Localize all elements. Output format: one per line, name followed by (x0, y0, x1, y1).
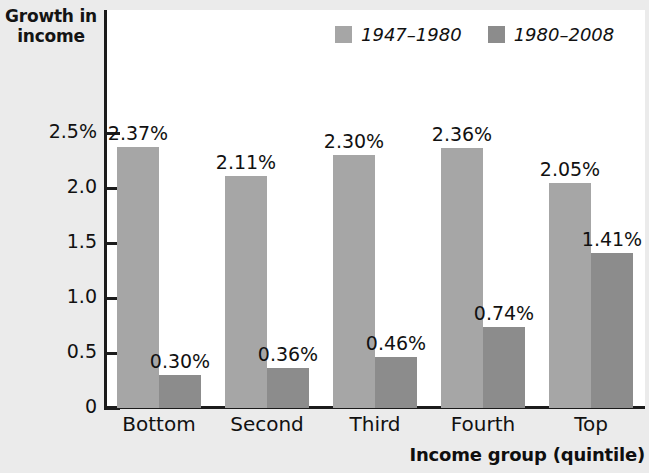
bar (441, 148, 483, 408)
y-tick-label: 0.5 (67, 340, 97, 362)
y-tick-label: 1.0 (67, 285, 97, 307)
bar (333, 155, 375, 408)
x-axis-title: Income group (quintile) (409, 444, 645, 465)
bar-value-label: 2.11% (211, 151, 281, 173)
bar-value-label: 2.05% (535, 158, 605, 180)
x-axis-label: Fourth (429, 412, 537, 436)
x-axis-label: Bottom (105, 412, 213, 436)
bar-value-label: 0.30% (145, 350, 215, 372)
x-axis-label: Third (321, 412, 429, 436)
y-tick-label: 2.0 (67, 175, 97, 197)
y-axis-title-line1: Growth in (5, 6, 97, 26)
bar-value-label: 1.41% (577, 228, 647, 250)
x-axis-label: Top (537, 412, 645, 436)
bar (159, 375, 201, 408)
bar-value-label: 0.74% (469, 302, 539, 324)
bar (483, 327, 525, 408)
bar-value-label: 2.37% (103, 122, 173, 144)
y-tick-label: 0 (85, 395, 97, 417)
bar (267, 368, 309, 408)
y-axis-title-line2: income (2, 26, 100, 46)
bar (225, 176, 267, 408)
bar-chart: Growth in income 1947–1980 1980–2008 00.… (0, 0, 649, 473)
y-axis-title: Growth in income (2, 6, 100, 46)
y-tick-label: 2.5% (49, 120, 97, 142)
y-tick-label: 1.5 (67, 230, 97, 252)
bar-value-label: 2.36% (427, 123, 497, 145)
bar-value-label: 2.30% (319, 130, 389, 152)
bar (549, 183, 591, 409)
bar (375, 357, 417, 408)
bar (591, 253, 633, 408)
bar-value-label: 0.36% (253, 343, 323, 365)
x-axis-label: Second (213, 412, 321, 436)
bar-value-label: 0.46% (361, 332, 431, 354)
